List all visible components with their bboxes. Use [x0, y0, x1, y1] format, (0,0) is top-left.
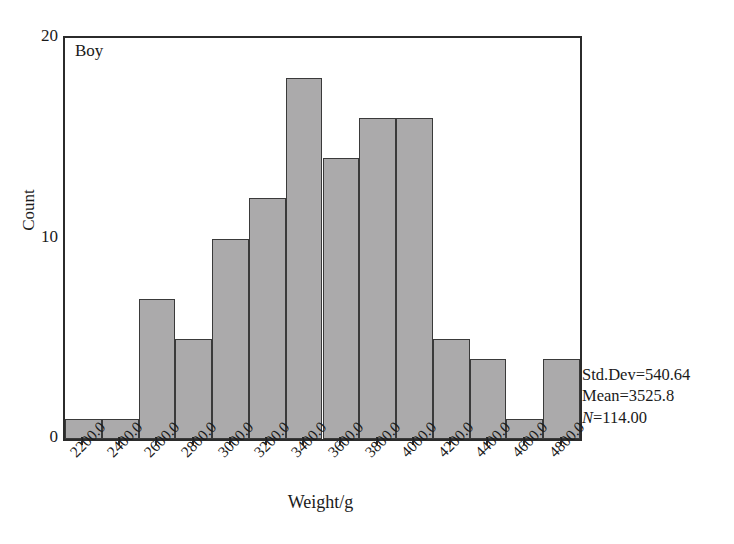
y-axis-tick-label: 10 [6, 228, 58, 245]
sample-size-label: N=114.00 [582, 407, 690, 428]
histogram-bar [212, 239, 249, 440]
histogram-bar [323, 158, 360, 439]
histogram-bar [359, 118, 396, 439]
y-axis-tick-label: 0 [6, 428, 58, 445]
histogram-bar [286, 78, 323, 439]
std-dev-label: Std.Dev=540.64 [582, 364, 690, 385]
x-axis-title: Weight/g [63, 492, 578, 513]
statistics-annotation: Std.Dev=540.64 Mean=3525.8 N=114.00 [582, 364, 690, 428]
histogram-bar [249, 198, 286, 439]
histogram-figure: Count 01020 Boy 2200.02400.02600.02800.0… [0, 0, 734, 544]
sample-size-value: =114.00 [593, 408, 647, 427]
histogram-bar [396, 118, 433, 439]
histogram-bars [65, 38, 580, 439]
y-axis-tick-labels: 01020 [0, 0, 58, 480]
mean-label: Mean=3525.8 [582, 385, 690, 406]
plot-area: Boy [63, 36, 582, 441]
y-axis-tick-label: 20 [6, 27, 58, 44]
sample-size-symbol: N [582, 408, 593, 427]
